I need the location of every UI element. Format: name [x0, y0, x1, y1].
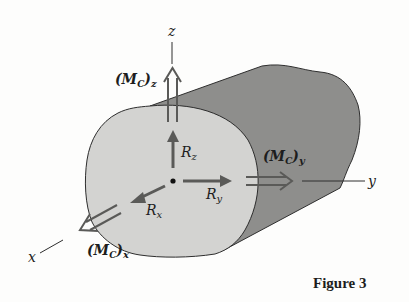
x-axis-label: x [28, 250, 36, 264]
moment-y-label-open: (M [263, 148, 285, 164]
force-rx-label-base: R [146, 202, 157, 218]
force-rz-label-sub: z [192, 151, 197, 162]
force-ry-label-sub: y [217, 193, 223, 204]
moment-x-label: (MC)x [87, 243, 129, 260]
moment-y-label-close: ) [292, 148, 299, 164]
force-rx-label: Rx [146, 203, 162, 220]
moment-z-label-close: ) [144, 71, 151, 87]
force-ry-label-base: R [206, 186, 217, 202]
moment-y-label-sub: y [299, 155, 305, 166]
figure-caption: Figure 3 [313, 275, 366, 292]
y-axis-label: y [368, 174, 376, 188]
figure-canvas: z y x (MC)z (MC)y (MC)x Rz Ry Rx Figure … [0, 0, 409, 302]
moment-z-label: (MC)z [115, 72, 157, 89]
moment-z-label-sub: z [151, 78, 157, 89]
force-rz-label: Rz [181, 145, 197, 162]
z-axis-label: z [168, 24, 175, 38]
moment-y-label: (MC)y [263, 149, 305, 166]
moment-x-label-close: ) [116, 242, 123, 258]
origin-point [170, 178, 175, 183]
moment-z-label-open: (M [115, 71, 137, 87]
x-axis-line [40, 240, 63, 253]
moment-x-label-open: (M [87, 242, 109, 258]
force-rx-label-sub: x [157, 209, 163, 220]
force-rz-label-base: R [181, 144, 192, 160]
cylinder-diagram [0, 0, 409, 302]
force-ry-label: Ry [206, 187, 222, 204]
moment-x-label-sub: x [123, 249, 129, 260]
